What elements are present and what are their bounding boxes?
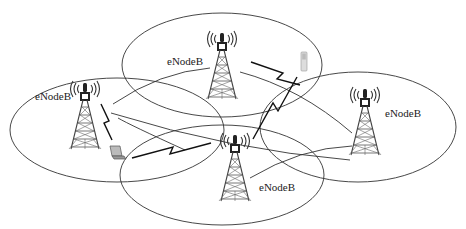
tower-top-icon: [206, 31, 238, 99]
cell-left-label: eNodeB: [35, 90, 71, 102]
cell-right-label: eNodeB: [385, 107, 421, 119]
cell-top-label: eNodeB: [167, 55, 203, 67]
cell-bottom-label: eNodeB: [259, 181, 295, 193]
tower-bottom-icon: [219, 133, 251, 201]
wireless-top-phone: [251, 62, 300, 85]
wireless-left-laptop: [101, 104, 112, 140]
link-left-top: [113, 68, 210, 104]
wireless-bottom-phone: [253, 77, 297, 139]
mobile-phone-icon: [301, 52, 307, 71]
link-top-right: [240, 72, 352, 133]
link-bottom-left: [118, 118, 185, 150]
link-bottom-right: [250, 146, 352, 178]
tower-left-icon: [69, 81, 101, 149]
lte-network-diagram: eNodeB eNodeB eNodeB eNodeB: [0, 0, 466, 229]
laptop-icon: [110, 146, 126, 159]
wireless-bottom-left: [132, 143, 211, 158]
tower-right-icon: [349, 87, 381, 155]
